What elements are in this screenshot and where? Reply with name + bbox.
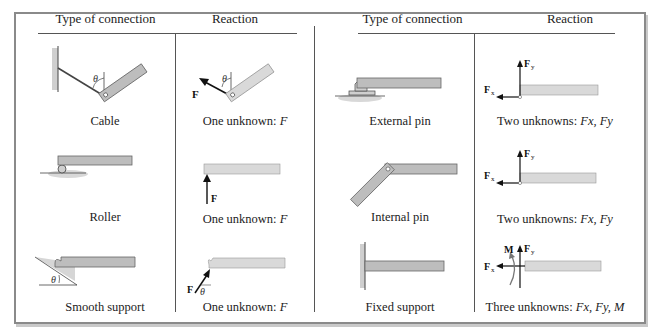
internal-pin-diagram [350,160,460,215]
label-internal-pin: Internal pin [330,210,470,225]
svg-text:F: F [524,58,530,69]
reaction-label-fixed-support: Three unknowns: Fx, Fy, M [480,300,630,315]
svg-text:x: x [491,175,495,183]
header-right-type: Type of connection [345,11,480,27]
svg-text:θ: θ [200,286,205,297]
reaction-label-cable: One unknown: F [180,114,310,129]
header-left-reaction: Reaction [185,11,285,27]
roller-diagram [40,150,160,190]
label-fixed-support: Fixed support [330,300,470,315]
svg-text:y: y [531,63,535,71]
fixed-support-reaction-diagram: M F y F x [480,240,610,295]
fixed-support-diagram [355,240,465,295]
label-roller: Roller [40,210,170,225]
external-pin-reaction-diagram: F y F x [480,55,610,105]
cable-diagram: θ [40,40,160,110]
label-smooth-support: Smooth support [40,300,170,315]
svg-text:F: F [524,243,530,254]
smooth-support-diagram: θ [35,255,165,300]
svg-text:y: y [531,248,535,256]
svg-text:x: x [491,89,495,97]
smooth-support-reaction-diagram: F θ [185,255,295,300]
svg-text:F: F [484,261,490,272]
svg-text:x: x [491,266,495,274]
svg-text:F: F [211,193,217,204]
header-rule-left [38,33,297,34]
svg-text:y: y [531,153,535,161]
svg-text:F: F [484,170,490,181]
divider-center [314,26,315,312]
header-left-type: Type of connection [38,11,173,27]
svg-text:F: F [484,84,490,95]
divider-left [175,34,176,312]
svg-text:M: M [504,244,514,255]
svg-text:θ: θ [222,73,227,84]
header-right-reaction: Reaction [520,11,620,27]
svg-text:F: F [187,284,193,295]
cable-reaction-diagram: θ F [185,40,295,110]
label-cable: Cable [40,114,170,129]
roller-reaction-diagram: F [185,160,295,210]
external-pin-diagram [335,70,445,110]
svg-text:θ: θ [51,274,56,285]
divider-right [474,34,475,312]
reaction-label-roller: One unknown: F [180,212,310,227]
reaction-label-external-pin: Two unknowns: Fx, Fy [480,114,630,129]
moment-arrow-icon [510,256,515,285]
header-rule-right [358,33,615,34]
reaction-label-smooth-support: One unknown: F [180,300,310,315]
internal-pin-reaction-diagram: F y F x [480,145,610,195]
svg-text:θ: θ [93,73,98,84]
reaction-label-internal-pin: Two unknowns: Fx, Fy [480,212,630,227]
svg-text:F: F [524,148,530,159]
label-external-pin: External pin [330,114,470,129]
svg-text:F: F [192,88,199,100]
